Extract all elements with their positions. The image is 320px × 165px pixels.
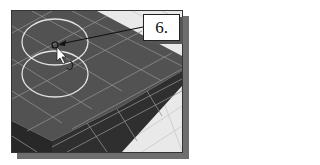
step-number: 6. (155, 18, 168, 38)
step-callout: 6. (143, 14, 180, 41)
